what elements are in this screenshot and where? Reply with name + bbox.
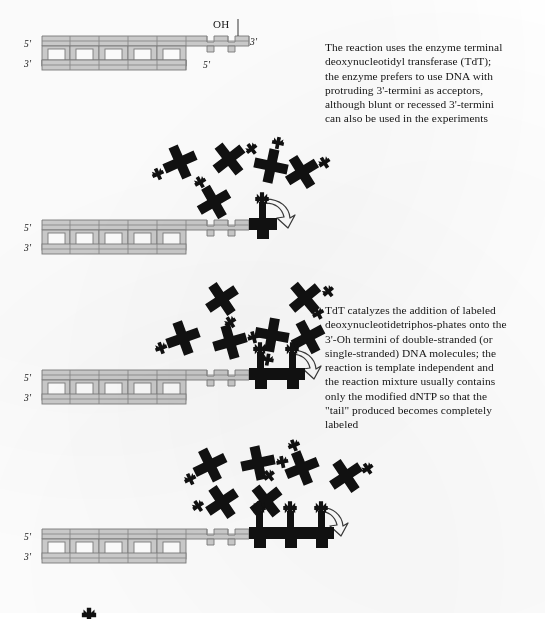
five-prime-label-top-panel-4: 5' xyxy=(24,531,31,542)
dna-duplex-panel-3 xyxy=(42,364,307,412)
five-prime-label-top-panel-1: 5' xyxy=(24,38,31,49)
dna-duplex-panel-2 xyxy=(42,214,277,262)
panel-3-chain-elongation: 5' 3' xyxy=(0,285,545,425)
dna-duplex-panel-1 xyxy=(42,30,257,78)
caption-text-1: The reaction uses the enzyme terminal de… xyxy=(325,40,540,126)
five-prime-label-top-panel-3: 5' xyxy=(24,372,31,383)
three-prime-label-bottom-panel-2: 3' xyxy=(24,242,31,253)
caption-text-2: TdT catalyzes the addition of labeled de… xyxy=(325,303,543,431)
panel-2-first-incorporation: 5' 3' xyxy=(0,140,545,270)
three-prime-label-bottom-panel-3: 3' xyxy=(24,392,31,403)
three-prime-label-bottom-panel-1: 3' xyxy=(24,58,31,69)
panel-4-completely-labeled-tail: 5' 3' xyxy=(0,440,545,613)
five-prime-label-top-panel-2: 5' xyxy=(24,222,31,233)
dna-duplex-panel-4 xyxy=(42,523,337,571)
three-prime-label-bottom-panel-4: 3' xyxy=(24,551,31,562)
cropped-nucleotide-bottom-edge xyxy=(78,603,108,619)
incorporated-nucleotide xyxy=(249,501,334,548)
hydroxyl-label-panel-1: OH xyxy=(213,18,229,30)
panel-1-initial-duplex: OH 5' 3' 3' 5' xyxy=(0,0,545,140)
